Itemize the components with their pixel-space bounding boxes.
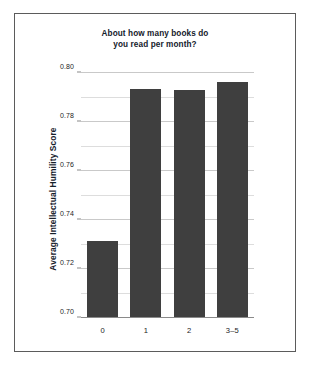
chart-title-line-1: About how many books do [15, 28, 295, 39]
bar-1 [130, 89, 161, 318]
y-tick-label: 0.76 [60, 161, 74, 168]
y-axis-title: Average Intellectual Humility Score [48, 84, 58, 314]
x-tick-label: 1 [144, 326, 148, 335]
x-tick-label: 0 [100, 326, 104, 335]
plot-area: 0.700.720.740.760.780.80 0123–5 [81, 73, 254, 318]
x-axis-line [81, 317, 254, 318]
bar-0 [87, 241, 118, 318]
chart-title: About how many books do you read per mon… [15, 28, 295, 50]
y-tick-label: 0.80 [60, 63, 74, 70]
chart-title-line-2: you read per month? [15, 39, 295, 50]
y-tick-label: 0.70 [60, 308, 74, 315]
x-tick-label: 2 [187, 326, 191, 335]
y-tick-label: 0.74 [60, 210, 74, 217]
x-tick-label: 3–5 [226, 326, 239, 335]
y-tick-label: 0.78 [60, 112, 74, 119]
bar-2 [174, 90, 205, 318]
figure-frame: About how many books do you read per mon… [14, 13, 296, 352]
bar-series [81, 73, 254, 318]
bar-3–5 [217, 82, 248, 318]
y-tick-label: 0.72 [60, 259, 74, 266]
